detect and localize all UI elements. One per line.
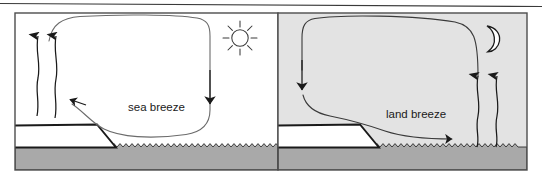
top-divider-rule bbox=[0, 4, 542, 7]
land-breeze-panel: land breeze bbox=[274, 13, 527, 170]
sea-breeze-panel: sea breeze bbox=[11, 13, 279, 170]
sea-breeze-label: sea breeze bbox=[128, 101, 185, 113]
night-land-mass bbox=[274, 125, 379, 148]
day-land-mass bbox=[11, 125, 116, 148]
land-breeze-label: land breeze bbox=[386, 108, 446, 120]
sea-breeze-land-breeze-diagram: sea breeze bbox=[0, 0, 542, 182]
